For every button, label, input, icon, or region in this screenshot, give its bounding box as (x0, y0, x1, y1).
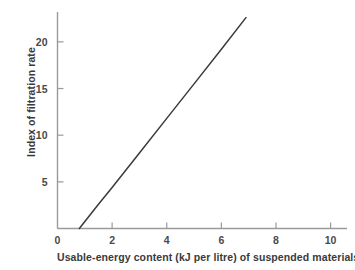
x-tick-label: 6 (218, 234, 224, 246)
y-tick-label: 20 (26, 36, 48, 48)
tick-marks (58, 42, 331, 229)
x-tick-label: 10 (325, 234, 337, 246)
axis-lines (58, 12, 348, 229)
x-tick-label: 0 (55, 234, 61, 246)
data-series-group (79, 18, 246, 229)
data-line (79, 18, 246, 229)
y-tick-label: 5 (26, 176, 48, 188)
x-tick-label: 4 (164, 234, 170, 246)
x-axis-title: Usable-energy content (kJ per litre) of … (57, 251, 347, 263)
x-tick-label: 2 (109, 234, 115, 246)
chart-figure: Index of filtration rate 5101520 0246810… (0, 0, 355, 270)
plot-area (0, 0, 355, 270)
y-tick-label: 15 (26, 83, 48, 95)
x-tick-label: 8 (273, 234, 279, 246)
y-tick-label: 10 (26, 129, 48, 141)
